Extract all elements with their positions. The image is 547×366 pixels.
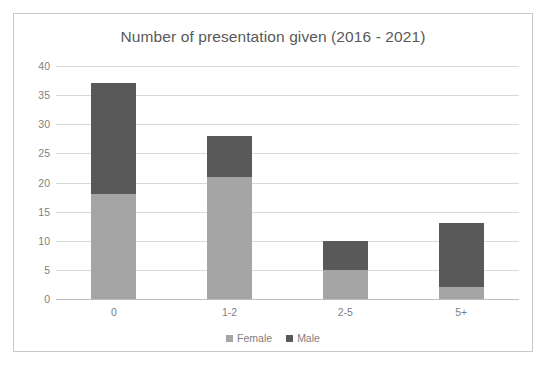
legend-swatch-icon: [226, 335, 233, 342]
legend-item-female[interactable]: Female: [226, 332, 272, 344]
y-axis-tick-label: 40: [24, 60, 50, 72]
bar-group[interactable]: [91, 66, 136, 299]
chart-legend: FemaleMale: [14, 332, 532, 344]
legend-label: Female: [237, 332, 272, 344]
y-axis-tick-label: 0: [24, 293, 50, 305]
x-axis: 01-22-55+: [56, 306, 519, 324]
bar-group[interactable]: [323, 66, 368, 299]
y-axis-tick-label: 35: [24, 89, 50, 101]
x-axis-tick-label: 0: [74, 306, 154, 318]
bar-segment-female[interactable]: [207, 177, 252, 299]
y-axis-tick-label: 25: [24, 147, 50, 159]
bar-segment-male[interactable]: [91, 83, 136, 194]
y-axis: 0510152025303540: [20, 66, 50, 299]
x-axis-tick-label: 2-5: [305, 306, 385, 318]
legend-label: Male: [297, 332, 320, 344]
x-axis-tick-label: 1-2: [190, 306, 270, 318]
bar-group[interactable]: [439, 66, 484, 299]
bar-segment-female[interactable]: [91, 194, 136, 299]
legend-item-male[interactable]: Male: [286, 332, 320, 344]
bars-layer: [56, 66, 519, 299]
bar-segment-male[interactable]: [207, 136, 252, 177]
bar-segment-female[interactable]: [439, 287, 484, 299]
bar-segment-male[interactable]: [323, 241, 368, 270]
bar-segment-female[interactable]: [323, 270, 368, 299]
y-axis-tick-label: 10: [24, 235, 50, 247]
x-axis-tick-label: 5+: [421, 306, 501, 318]
y-axis-tick-label: 5: [24, 264, 50, 276]
bar-segment-male[interactable]: [439, 223, 484, 287]
y-axis-tick-label: 15: [24, 206, 50, 218]
gridline: [56, 299, 519, 300]
chart-container: Number of presentation given (2016 - 202…: [13, 13, 533, 352]
chart-title: Number of presentation given (2016 - 202…: [14, 28, 532, 46]
legend-swatch-icon: [286, 335, 293, 342]
y-axis-tick-label: 20: [24, 177, 50, 189]
y-axis-tick-label: 30: [24, 118, 50, 130]
bar-group[interactable]: [207, 66, 252, 299]
